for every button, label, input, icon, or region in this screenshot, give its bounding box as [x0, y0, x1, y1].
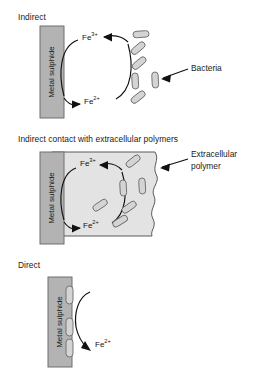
- ferrous-ion-text: Fe: [83, 221, 92, 230]
- ferric-ion-text: Fe: [80, 159, 89, 168]
- arrowhead-to-ferrous: [72, 101, 81, 109]
- metal-sulphide-label: Metal sulphide: [55, 296, 64, 348]
- ferric-ion-text: Fe: [82, 33, 91, 42]
- cycle-arc-right: [116, 44, 131, 99]
- bacteria-group: [66, 286, 73, 357]
- ferrous-ion-text: Fe: [95, 340, 104, 349]
- bacterium: [133, 30, 149, 38]
- ferric-ion-charge: 3+: [89, 157, 95, 163]
- bacterium: [130, 90, 147, 105]
- ferrous-ion-label: Fe2+: [95, 340, 111, 349]
- ferrous-ion-charge: 2+: [104, 338, 110, 344]
- ferric-ion-label: Fe3+: [80, 159, 96, 168]
- metal-sulphide-label: Metal sulphide: [47, 172, 56, 224]
- bioleaching-mechanisms-figure: Indirect Metal sulphide: [0, 0, 261, 375]
- bacterium: [132, 73, 139, 89]
- bacterium: [139, 178, 146, 194]
- polymer-callout-label-line1: Extracellular: [191, 149, 237, 160]
- ferric-ion-charge: 3+: [91, 31, 97, 37]
- panel-polymer: Indirect contact with extracellular poly…: [0, 130, 261, 255]
- bacterium: [152, 72, 159, 88]
- metal-sulphide-label: Metal sulphide: [47, 46, 56, 98]
- panel-indirect: Indirect Metal sulphide: [0, 0, 261, 130]
- ferrous-ion-label: Fe2+: [84, 97, 100, 106]
- arrowhead-to-ferric: [103, 33, 112, 42]
- bacteria-group: [130, 30, 159, 104]
- bacterium: [131, 56, 147, 71]
- ferrous-ion-charge: 2+: [93, 95, 99, 101]
- bacterium: [66, 318, 73, 336]
- panel-direct: Direct Metal sulphide Fe2+: [0, 255, 261, 375]
- bacterium: [66, 339, 73, 357]
- bacterium: [130, 41, 146, 56]
- ferrous-ion-charge: 2+: [92, 219, 98, 225]
- panel-direct-graphics: Metal sulphide: [0, 255, 261, 375]
- ferrous-release-arrow: [76, 292, 90, 349]
- bacterium: [120, 180, 127, 196]
- bacterium: [66, 286, 73, 304]
- bacteria-callout-label: Bacteria: [191, 63, 222, 74]
- ferrous-ion-label: Fe2+: [83, 221, 99, 230]
- polymer-callout-arrowhead: [160, 164, 170, 172]
- ferric-ion-label: Fe3+: [82, 33, 98, 42]
- polymer-callout-label-line2: polymer: [191, 161, 221, 172]
- ferrous-ion-text: Fe: [84, 97, 93, 106]
- bacteria-callout-arrowhead: [161, 75, 171, 83]
